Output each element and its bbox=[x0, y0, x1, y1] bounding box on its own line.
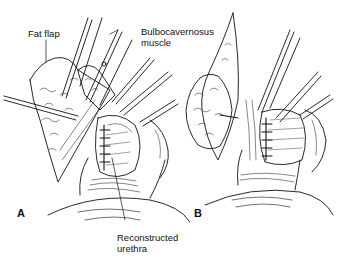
panel-b-artwork bbox=[186, 13, 333, 215]
reconstructed-urethra-leader bbox=[112, 158, 125, 220]
label-muscle: muscle bbox=[141, 37, 171, 48]
annotation-leaders bbox=[46, 30, 125, 220]
surgical-figure: Fat flap Bulbocavernosus muscle Reconstr… bbox=[0, 0, 340, 266]
panel-label-a: A bbox=[17, 207, 25, 219]
panel-label-b: B bbox=[194, 207, 202, 219]
label-bulbocavernosus: Bulbocavernosus bbox=[141, 26, 214, 37]
label-fat-flap: Fat flap bbox=[28, 28, 60, 39]
label-urethra: urethra bbox=[117, 243, 147, 254]
label-reconstructed: Reconstructed bbox=[117, 232, 178, 243]
panel-a-artwork bbox=[4, 18, 190, 222]
